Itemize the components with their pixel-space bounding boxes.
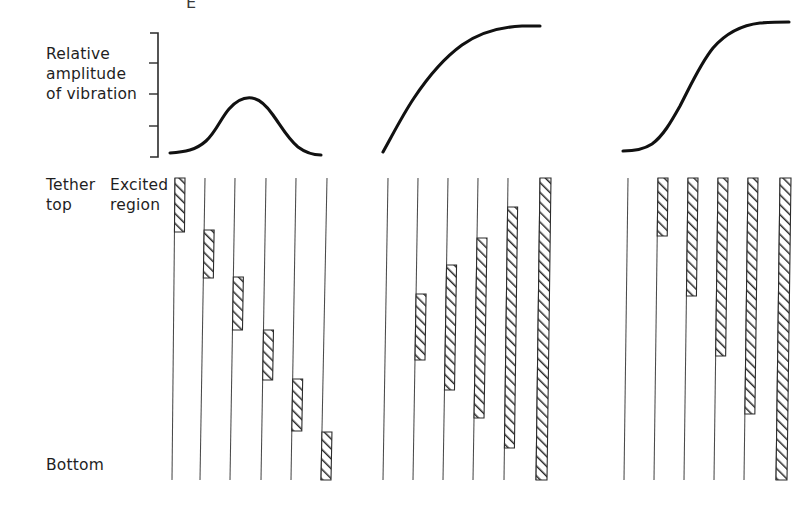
excited-region-label-line-2: region [110,196,160,214]
excited-region-hatch [657,178,668,236]
excited-region-hatch [321,432,332,480]
excited-region-hatch [174,178,185,232]
excited-region-hatch [232,277,243,330]
axis-label-line-2-text: amplitude [46,65,126,83]
excited-region-hatch [203,230,214,278]
axis-label-line-3-text: of vibration [46,85,137,103]
clipped-top-text: E [186,0,196,12]
excited-region-label-line-1: Excited [110,176,168,194]
axis-label-line-1-text: Relative [46,45,110,63]
excited-region-hatch [415,294,426,360]
tether-top-label-line-2: top [46,196,72,214]
excited-region-hatch [292,379,303,431]
tether-top-label-line-1: Tether [45,176,96,194]
figure-root: E Relative amplitude of vibration Tether… [0,0,811,513]
tether-vibration-diagram: E Relative amplitude of vibration Tether… [0,0,811,513]
bottom-label: Bottom [46,456,104,474]
excited-region-hatch [263,330,274,380]
